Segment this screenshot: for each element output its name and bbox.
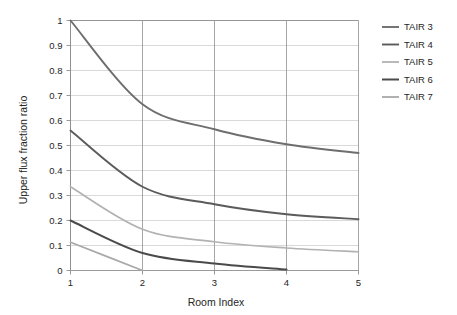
x-tick-label: 5	[356, 277, 361, 288]
legend-label-tair-7[interactable]: TAIR 7	[404, 91, 433, 102]
line-chart: 00.10.20.30.40.50.60.70.80.91 12345 TAIR…	[0, 0, 457, 315]
y-axis-title: Upper flux fraction ratio	[17, 96, 29, 205]
legend-label-tair-4[interactable]: TAIR 4	[404, 39, 433, 50]
series-line-tair-7	[71, 242, 143, 270]
y-tick-label: 0.6	[49, 115, 62, 126]
y-tick-label: 0.1	[49, 240, 62, 251]
x-axis-title: Room Index	[188, 296, 245, 308]
y-tick-label: 0.3	[49, 190, 62, 201]
y-tick-label: 0.9	[49, 40, 62, 51]
x-tick-label: 2	[140, 277, 145, 288]
x-tick-label: 4	[284, 277, 289, 288]
chart-legend: TAIR 3TAIR 4TAIR 5TAIR 6TAIR 7	[382, 21, 433, 102]
legend-label-tair-6[interactable]: TAIR 6	[404, 74, 433, 85]
legend-label-tair-5[interactable]: TAIR 5	[404, 56, 433, 67]
x-tick-label: 3	[212, 277, 217, 288]
y-tick-label: 1	[57, 15, 62, 26]
y-tick-label: 0.7	[49, 90, 62, 101]
y-axis-tick-labels: 00.10.20.30.40.50.60.70.80.91	[49, 15, 62, 276]
chart-figure: 00.10.20.30.40.50.60.70.80.91 12345 TAIR…	[0, 0, 457, 315]
y-tick-label: 0.8	[49, 65, 62, 76]
x-axis-tick-labels: 12345	[68, 277, 361, 288]
y-tick-label: 0.5	[49, 140, 62, 151]
x-tick-label: 1	[68, 277, 73, 288]
y-tick-label: 0	[57, 265, 62, 276]
y-tick-label: 0.4	[49, 165, 62, 176]
legend-label-tair-3[interactable]: TAIR 3	[404, 21, 433, 32]
y-tick-label: 0.2	[49, 215, 62, 226]
